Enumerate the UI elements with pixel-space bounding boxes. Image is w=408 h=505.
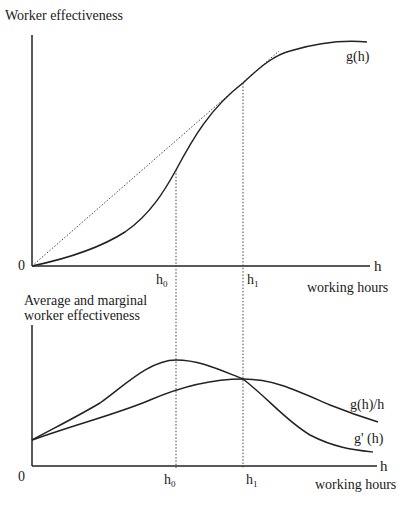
bottom-y-axis-label-line1: Average and marginal (24, 293, 147, 308)
marginal-g-prime-curve (32, 360, 373, 452)
marginal-curve-label: g' (h) (354, 431, 384, 447)
top-h1-label: h1 (247, 272, 259, 289)
bottom-y-axis-label-line2: worker effectiveness (24, 308, 140, 323)
average-curve-label: g(h)/h (350, 397, 384, 413)
bottom-x-axis-label: working hours (315, 477, 396, 492)
diagram-canvas: Worker effectiveness 0 h working hours g… (0, 0, 408, 505)
top-h0-label: h0 (156, 272, 168, 289)
bottom-x-axis-symbol: h (380, 458, 388, 474)
bottom-h1-label: h1 (246, 472, 258, 489)
average-g-h-over-h-curve (32, 379, 378, 440)
top-origin-label: 0 (18, 258, 25, 273)
g-h-curve (32, 41, 367, 266)
top-x-axis-symbol: h (374, 258, 382, 274)
g-h-label: g(h) (346, 49, 370, 65)
bottom-origin-label: 0 (18, 469, 25, 484)
top-y-axis-label: Worker effectiveness (5, 8, 123, 23)
top-x-axis-label: working hours (307, 280, 388, 295)
bottom-h0-label: h0 (164, 472, 176, 489)
